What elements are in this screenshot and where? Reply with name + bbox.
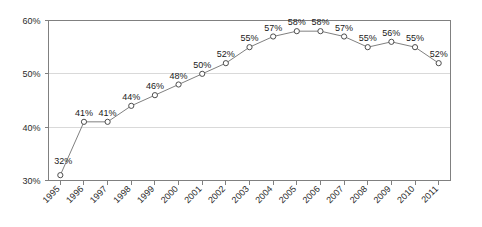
data-point-marker — [105, 119, 110, 124]
data-point-marker — [81, 119, 86, 124]
data-point-marker — [58, 173, 63, 178]
y-tick-label: 40% — [22, 123, 40, 133]
data-point-marker — [200, 71, 205, 76]
data-point-label: 58% — [288, 17, 306, 27]
data-point-marker — [365, 45, 370, 50]
data-point-label: 44% — [122, 92, 140, 102]
y-tick-label: 50% — [22, 69, 40, 79]
data-point-marker — [271, 34, 276, 39]
data-point-label: 41% — [99, 108, 117, 118]
data-point-marker — [412, 45, 417, 50]
data-point-label: 50% — [193, 60, 211, 70]
data-point-label: 48% — [170, 71, 188, 81]
data-point-marker — [341, 34, 346, 39]
data-point-marker — [389, 39, 394, 44]
data-point-label: 57% — [264, 23, 282, 33]
data-point-marker — [152, 93, 157, 98]
data-point-label: 46% — [146, 81, 164, 91]
data-point-label: 32% — [54, 156, 72, 166]
y-tick-label: 60% — [22, 16, 40, 26]
data-point-label: 58% — [311, 17, 329, 27]
line-chart: 30%40%50%60% 199519961997199819992000200… — [0, 0, 482, 227]
chart-canvas: 30%40%50%60% 199519961997199819992000200… — [0, 0, 482, 227]
data-point-label: 55% — [240, 33, 258, 43]
data-point-marker — [223, 61, 228, 66]
data-point-label: 41% — [75, 108, 93, 118]
data-point-marker — [129, 103, 134, 108]
data-point-label: 55% — [406, 33, 424, 43]
data-point-marker — [294, 29, 299, 34]
data-point-label: 57% — [335, 23, 353, 33]
data-point-label: 56% — [382, 28, 400, 38]
data-point-label: 55% — [359, 33, 377, 43]
data-point-marker — [436, 61, 441, 66]
data-point-label: 52% — [430, 49, 448, 59]
data-point-marker — [318, 29, 323, 34]
data-point-marker — [176, 82, 181, 87]
data-point-label: 52% — [217, 49, 235, 59]
y-tick-label: 30% — [22, 176, 40, 186]
data-point-marker — [247, 45, 252, 50]
